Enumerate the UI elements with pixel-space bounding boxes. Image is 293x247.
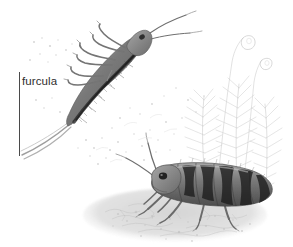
illustration-figure: furcula [0,0,293,247]
springtail-lower-eye [159,173,167,180]
springtail-illustration [0,0,293,247]
